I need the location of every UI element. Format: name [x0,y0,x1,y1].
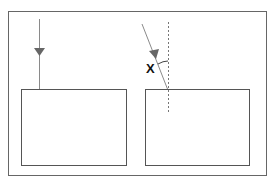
arrow-icon [149,49,159,59]
left-block [22,90,127,166]
angle-label: X [146,61,155,76]
left-ray [34,19,45,89]
arrow-down-icon [34,48,45,56]
right-block [146,90,250,166]
angle-arc [158,61,168,64]
right-ray [142,24,168,89]
diagram-canvas [0,0,273,178]
